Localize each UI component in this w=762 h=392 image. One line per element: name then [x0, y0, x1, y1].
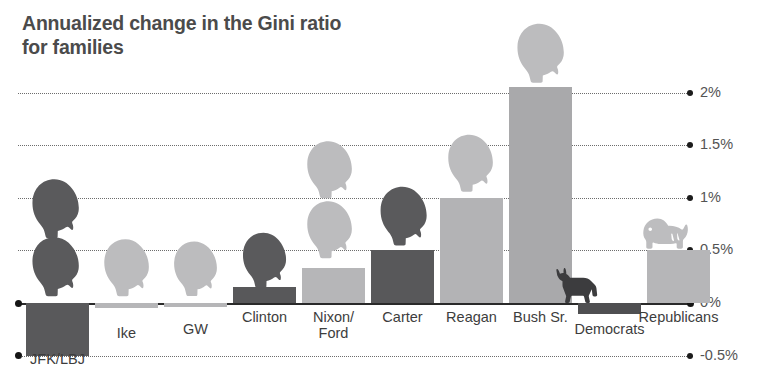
bar-nixonford[interactable] — [302, 268, 365, 303]
gridline-1% — [18, 198, 693, 199]
bar-republicans[interactable] — [647, 250, 710, 303]
president-head-light-icon — [170, 240, 218, 299]
y-axis-label: 2% — [700, 84, 721, 100]
gini-ratio-bar-chart: Annualized change in the Gini ratio for … — [0, 0, 762, 392]
gridline-2% — [18, 93, 693, 94]
bar-ike[interactable] — [95, 303, 158, 308]
bar-jfklbj[interactable] — [26, 303, 89, 356]
y-axis-label: 1% — [700, 189, 721, 205]
axis-tick-dot — [687, 353, 693, 359]
axis-tick-dot — [687, 195, 693, 201]
x-axis-label-republicans: Republicans — [634, 310, 723, 326]
gridline-1.5% — [18, 145, 693, 146]
president-head-light-icon — [100, 238, 150, 299]
bar-reagan[interactable] — [440, 198, 503, 303]
bar-carter[interactable] — [371, 250, 434, 303]
president-head-light-pair-icon — [303, 140, 353, 201]
bar-democrats[interactable] — [578, 303, 641, 314]
gridline--0.5% — [18, 356, 693, 357]
president-head-dark-icon — [376, 186, 428, 248]
axis-origin-dot — [15, 300, 22, 307]
president-head-light-pair-icon — [303, 200, 353, 261]
president-head-light-icon — [513, 22, 565, 86]
bar-clinton[interactable] — [233, 287, 296, 303]
president-head-dark-pair-icon — [28, 236, 80, 299]
bar-bushsr[interactable] — [509, 87, 572, 303]
y-axis-label: -0.5% — [700, 347, 738, 363]
plot-area: 2%1.5%1%0.5%0%-0.5%JFK/LBJIkeGWClintonNi… — [0, 0, 762, 392]
y-axis-label: 1.5% — [700, 136, 733, 152]
x-axis-label-jfklbj: JFK/LBJ — [13, 352, 102, 368]
president-head-light-icon — [444, 134, 494, 194]
axis-tick-dot — [687, 142, 693, 148]
axis-tick-dot — [687, 90, 693, 96]
bar-gw[interactable] — [164, 303, 227, 307]
president-head-dark-icon — [238, 232, 288, 290]
gridline-0.5% — [18, 250, 693, 251]
president-head-dark-pair-icon — [28, 178, 80, 241]
